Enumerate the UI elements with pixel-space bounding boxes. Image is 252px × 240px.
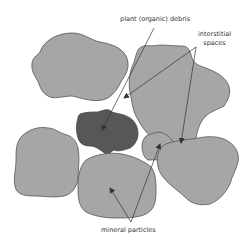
label-interstitial-line1: interstitial	[198, 30, 231, 39]
label-interstitial-spaces: interstitial spaces	[198, 30, 231, 48]
mineral-particle-bottom-right	[157, 137, 238, 205]
organic-debris	[77, 110, 139, 155]
mineral-particle-left	[14, 127, 79, 196]
label-organic-debris: plant (organic) debris	[120, 15, 190, 24]
mineral-particle-top-left	[32, 33, 128, 101]
label-mineral-particles: mineral particles	[101, 226, 156, 235]
label-interstitial-line2: spaces	[198, 39, 231, 48]
